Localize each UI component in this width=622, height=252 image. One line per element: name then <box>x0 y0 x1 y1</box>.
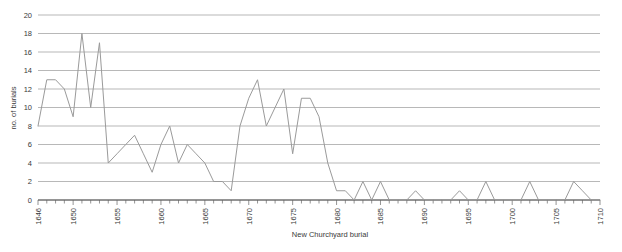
x-tick-label: 1695 <box>464 208 473 225</box>
x-tick-label: 1670 <box>245 208 254 225</box>
y-tick-label: 4 <box>28 159 32 168</box>
y-axis-title: no. of burials <box>9 86 18 129</box>
y-tick-label: 16 <box>24 48 32 57</box>
y-tick-label: 6 <box>28 140 32 149</box>
x-tick-label: 1675 <box>289 208 298 225</box>
x-tick-label: 1665 <box>201 208 210 225</box>
x-tick-label: 1685 <box>376 208 385 225</box>
y-tick-label: 8 <box>28 122 32 131</box>
y-tick-label: 14 <box>24 66 32 75</box>
y-tick-label: 2 <box>28 177 32 186</box>
x-tick-label: 1690 <box>420 208 429 225</box>
x-tick-label: 1660 <box>157 208 166 225</box>
y-tick-label: 20 <box>24 11 32 20</box>
x-tick-label: 1655 <box>113 208 122 225</box>
x-tick-label: 1650 <box>69 208 78 225</box>
x-tick-label: 1680 <box>333 208 342 225</box>
y-tick-label: 10 <box>24 103 32 112</box>
x-tick-label: 1700 <box>508 208 517 225</box>
burials-line-chart: 02468101214161820 1646165016551660166516… <box>0 0 622 252</box>
x-tick-label: 1710 <box>596 208 605 225</box>
x-axis-title: New Churchyard burial <box>292 230 369 239</box>
y-tick-label: 18 <box>24 29 32 38</box>
y-tick-label: 12 <box>24 85 32 94</box>
y-tick-label: 0 <box>28 196 32 205</box>
x-tick-label: 1705 <box>552 208 561 225</box>
x-tick-label: 1646 <box>34 208 43 225</box>
chart-canvas: 02468101214161820 1646165016551660166516… <box>0 0 622 252</box>
